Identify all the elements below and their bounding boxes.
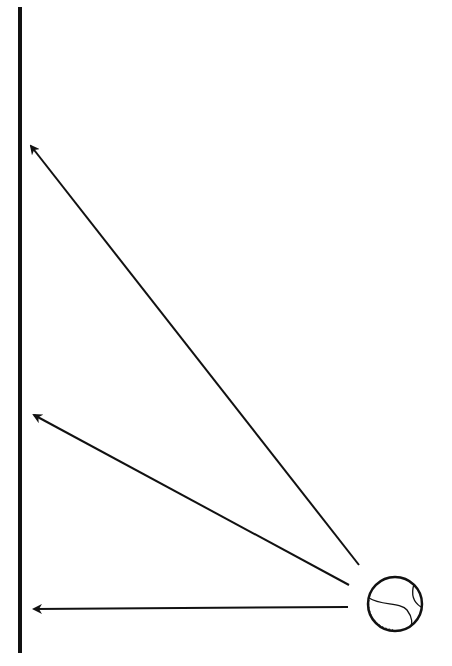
- diagram-canvas: [0, 0, 452, 666]
- arrow-medium: [34, 415, 349, 585]
- arrow-horizontal: [34, 607, 348, 609]
- arrows-group: [31, 146, 359, 609]
- tennis-ball-icon: [368, 577, 422, 631]
